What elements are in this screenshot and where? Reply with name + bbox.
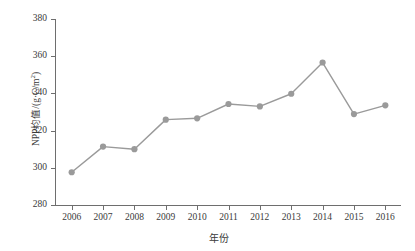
data-point xyxy=(100,144,106,150)
series-markers xyxy=(69,59,389,175)
series-line xyxy=(72,63,386,173)
data-point xyxy=(382,102,388,108)
npp-line-chart: NPP均值/(g·C/m2) 280300320340360380 200620… xyxy=(0,0,415,251)
series-layer xyxy=(0,0,415,251)
data-point xyxy=(194,115,200,121)
data-point xyxy=(131,146,137,152)
data-point xyxy=(69,169,75,175)
data-point xyxy=(225,101,231,107)
data-point xyxy=(257,103,263,109)
x-axis-title: 年份 xyxy=(0,230,415,245)
data-point xyxy=(319,59,325,65)
data-point xyxy=(288,91,294,97)
data-point xyxy=(351,111,357,117)
data-point xyxy=(163,117,169,123)
